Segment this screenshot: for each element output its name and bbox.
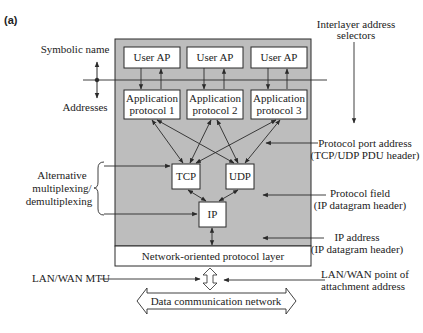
symbolic-address-arrow <box>95 62 99 98</box>
svg-text:User AP: User AP <box>197 51 234 63</box>
attachment-label-2: attachment address <box>321 280 405 292</box>
lan-wan-mtu-label: LAN/WAN MTU <box>32 272 110 284</box>
svg-text:protocol 2: protocol 2 <box>193 104 238 116</box>
app-protocol-box-2: Application protocol 2 <box>187 90 243 119</box>
data-network-arrow: Data communication network <box>137 288 296 314</box>
app-protocol-box-3: Application protocol 3 <box>251 90 307 119</box>
svg-text:TCP: TCP <box>176 170 196 182</box>
ip-box: IP <box>199 202 226 227</box>
port-address-label-2: (TCP/UDP PDU header) <box>311 149 420 162</box>
ip-address-label-2: (IP datagram header) <box>311 243 404 256</box>
svg-text:IP: IP <box>208 208 218 220</box>
user-ap-box-2: User AP <box>187 47 243 68</box>
user-ap-box-1: User AP <box>124 47 180 68</box>
network-layer-box: Network-oriented protocol layer <box>115 246 311 266</box>
svg-text:Data communication network: Data communication network <box>151 295 282 307</box>
svg-text:UDP: UDP <box>229 170 251 182</box>
attachment-label-1: LAN/WAN point of <box>321 268 409 280</box>
app-protocol-box-1: Application protocol 1 <box>124 90 180 119</box>
svg-text:protocol 1: protocol 1 <box>130 104 175 116</box>
protocol-field-label-1: Protocol field <box>330 187 391 199</box>
alternative-mux-label-1: Alternative <box>37 169 87 181</box>
user-ap-box-3: User AP <box>251 47 307 68</box>
svg-text:Application: Application <box>126 92 178 104</box>
svg-text:User AP: User AP <box>261 51 298 63</box>
svg-text:Application: Application <box>253 92 305 104</box>
udp-box: UDP <box>226 164 254 189</box>
mux-brace <box>94 162 104 215</box>
alternative-mux-label-3: demultiplexing <box>26 195 93 207</box>
svg-text:Application: Application <box>189 92 241 104</box>
panel-label: (a) <box>4 14 18 26</box>
addresses-label: Addresses <box>62 101 107 113</box>
network-attachment-arrow <box>203 268 217 290</box>
interlayer-label-2: selectors <box>337 29 375 41</box>
alternative-mux-label-2: multiplexing/ <box>32 182 92 194</box>
svg-text:Network-oriented protocol laye: Network-oriented protocol layer <box>142 250 285 262</box>
svg-text:protocol 3: protocol 3 <box>257 104 302 116</box>
ip-address-label-1: IP address <box>334 231 379 243</box>
protocol-field-label-2: (IP datagram header) <box>314 199 407 212</box>
svg-text:User AP: User AP <box>134 51 171 63</box>
protocol-stack-diagram: (a) User AP User AP User AP Application … <box>0 0 423 333</box>
port-address-label-1: Protocol port address <box>318 137 411 149</box>
symbolic-name-label: Symbolic name <box>41 43 110 55</box>
tcp-box: TCP <box>172 164 200 189</box>
